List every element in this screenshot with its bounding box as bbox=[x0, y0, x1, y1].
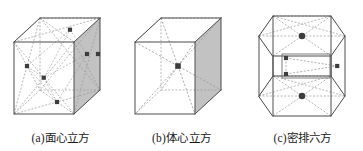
atom-left-face bbox=[25, 64, 29, 68]
bcc-shaded-right-face bbox=[195, 18, 221, 114]
atom-top-face bbox=[68, 28, 72, 32]
atom-top-center bbox=[299, 33, 306, 40]
atom-body-center bbox=[175, 63, 181, 69]
caption-fcc: (a)面心立方 bbox=[0, 129, 121, 145]
atom-bottom-face bbox=[55, 100, 59, 104]
hcp-diagram bbox=[242, 4, 363, 122]
hcp-solid-edges bbox=[259, 16, 345, 116]
hcp-mid-face bbox=[282, 54, 330, 78]
hcp-midplane-links bbox=[286, 58, 337, 74]
crystal-structure-figure: (a)面心立方 bbox=[0, 0, 363, 151]
bcc-diagram bbox=[121, 4, 242, 122]
atom-bottom-center bbox=[299, 93, 306, 100]
atom-right-face bbox=[85, 52, 89, 56]
atom-mid-upper-left bbox=[284, 56, 288, 60]
atom-mid-right bbox=[335, 64, 339, 68]
caption-bcc: (b)体心立方 bbox=[121, 129, 242, 145]
bcc-atoms bbox=[175, 63, 181, 69]
panel-face-centered-cubic: (a)面心立方 bbox=[0, 0, 121, 151]
panel-body-centered-cubic: (b)体心立方 bbox=[121, 0, 242, 151]
caption-hcp: (c)密排六方 bbox=[242, 129, 363, 145]
fcc-diagram bbox=[0, 4, 121, 122]
atom-mid-lower-left bbox=[284, 72, 288, 76]
atom-center bbox=[42, 76, 46, 80]
panel-hexagonal-close-packed: (c)密排六方 bbox=[242, 0, 363, 151]
atom-back-face bbox=[96, 52, 100, 56]
